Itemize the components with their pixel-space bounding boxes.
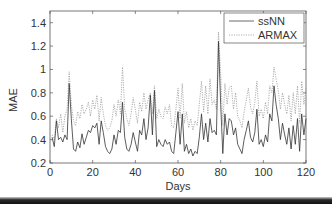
y-tick-label: 1.2 — [31, 40, 46, 52]
legend-label-ssnn: ssNN — [258, 15, 285, 27]
y-tick-label: 0.8 — [31, 87, 46, 99]
y-tick-label: 1.4 — [31, 17, 46, 29]
y-tick-label: 0.4 — [31, 134, 46, 146]
y-axis-label: MAE — [7, 88, 19, 112]
x-tick-label: 100 — [254, 166, 272, 178]
x-tick-label: 120 — [297, 166, 315, 178]
y-tick-label: 1 — [40, 63, 46, 75]
x-tick-label: 60 — [172, 166, 184, 178]
line-chart: 0204060801001200.20.40.60.811.21.4 MAE D… — [0, 0, 332, 196]
y-tick-label: 0.2 — [31, 157, 46, 169]
x-tick-label: 20 — [87, 166, 99, 178]
bottom-border — [0, 197, 332, 204]
y-tick-label: 0.6 — [31, 110, 46, 122]
legend: ssNN ARMAX — [224, 13, 304, 43]
x-axis-label: Days — [165, 180, 191, 192]
x-tick-label: 0 — [47, 166, 53, 178]
legend-label-armax: ARMAX — [258, 29, 298, 41]
x-tick-label: 40 — [129, 166, 141, 178]
x-tick-label: 80 — [215, 166, 227, 178]
